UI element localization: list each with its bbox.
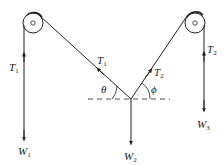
label-base: W [124, 150, 133, 162]
phi-arc [142, 83, 150, 99]
label-sub: 1 [103, 60, 107, 68]
label-sub: 2 [133, 156, 137, 164]
label-sub: 3 [206, 124, 210, 132]
theta-arc [112, 86, 117, 99]
label-t2-right: T2 [207, 44, 217, 57]
t2-diag-arrow [146, 70, 151, 77]
label-t2-diag: T2 [154, 67, 164, 80]
label-theta: θ [101, 84, 106, 95]
label-sub: 1 [15, 67, 19, 75]
label-t1-left: T1 [9, 62, 19, 75]
label-w2: W2 [124, 151, 137, 164]
label-base: W [18, 145, 27, 157]
label-sub: 2 [160, 72, 164, 80]
right-diagonal-rope [131, 16, 187, 99]
label-t1-diag: T1 [97, 55, 107, 68]
label-sub: 1 [27, 151, 31, 159]
left-pulley-icon [23, 12, 43, 33]
pulley-diagram [0, 0, 224, 165]
right-pulley-icon [185, 12, 205, 33]
label-w1: W1 [18, 146, 31, 159]
label-base: W [197, 118, 206, 130]
label-sub: 2 [213, 49, 217, 57]
label-phi: ϕ [151, 84, 157, 95]
t1-diag-arrow [98, 69, 104, 75]
label-w3: W3 [197, 119, 210, 132]
